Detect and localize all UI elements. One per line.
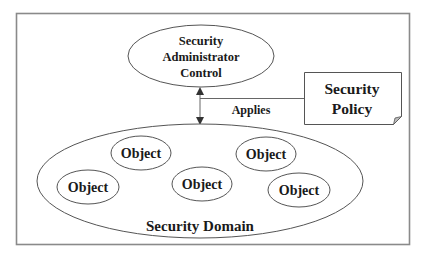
admin-control-line-3: Control: [180, 66, 222, 80]
security-domain-diagram: Security Administrator Control Applies S…: [0, 0, 423, 255]
object-node: Object: [111, 136, 171, 170]
security-domain: Object Object Object Object Object Secur…: [37, 124, 363, 238]
domain-label: Security Domain: [146, 218, 255, 234]
object-label: Object: [121, 146, 162, 161]
security-policy-note: Security Policy: [305, 73, 402, 125]
object-node: Object: [268, 173, 330, 207]
object-label: Object: [68, 180, 109, 195]
object-node: Object: [172, 167, 232, 201]
object-label: Object: [182, 177, 223, 192]
applies-label: Applies: [232, 103, 271, 117]
admin-control-line-2: Administrator: [162, 50, 240, 64]
admin-control-line-1: Security: [179, 34, 224, 48]
admin-control-node: Security Administrator Control: [128, 25, 274, 87]
object-label: Object: [246, 147, 287, 162]
policy-line-2: Policy: [332, 100, 373, 117]
object-node: Object: [236, 137, 296, 171]
policy-line-1: Security: [324, 80, 379, 97]
object-label: Object: [279, 183, 320, 198]
object-node: Object: [57, 170, 119, 204]
